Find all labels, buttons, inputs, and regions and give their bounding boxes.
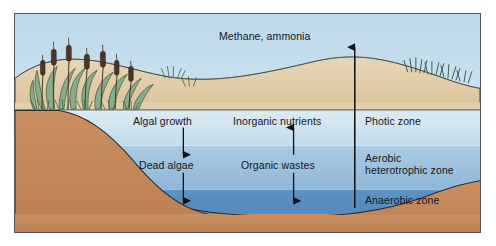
label-organic-wastes: Organic wastes [241,159,315,172]
label-algal-growth: Algal growth [133,115,192,128]
lake-diagram-figure: Methane, ammonia Algal growth Dead algae… [14,13,481,233]
label-dead-algae: Dead algae [139,159,194,172]
sediment-fill-bottom [15,215,480,232]
label-inorganic-nutrients: Inorganic nutrients [233,115,321,128]
label-photic-zone: Photic zone [365,115,421,128]
label-methane-ammonia: Methane, ammonia [219,30,310,43]
label-aerobic-line2: heterotrophic zone [365,164,454,177]
label-aerobic-line1: Aerobic [365,152,401,165]
label-anaerobic-zone: Anaerobic zone [365,194,439,207]
figure-stage: Methane, ammonia Algal growth Dead algae… [0,0,496,246]
